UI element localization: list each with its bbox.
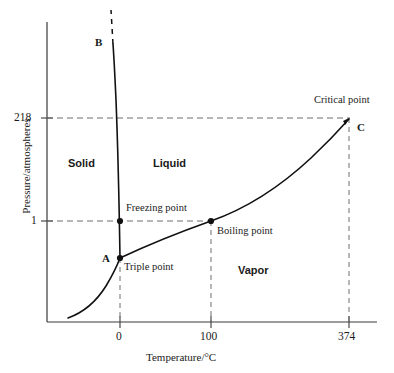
x-tick-label-0: 0 [116,331,122,343]
point-label-c: C [357,122,365,133]
phase-diagram-plot [0,0,394,373]
annotation-boiling-point: Boiling point [217,226,273,237]
x-tick-label-100: 100 [200,331,217,343]
fusion-curve [113,44,120,258]
annotation-freezing-point: Freezing point [126,203,187,214]
point-label-a: A [102,253,110,264]
y-tick-label-1: 1 [31,215,37,227]
freezing-point-marker [117,218,123,224]
x-tick-label-374: 374 [338,331,355,343]
y-tick-label-218: 218 [14,112,31,124]
region-label-liquid: Liquid [153,158,186,169]
sublimation-curve [68,258,120,318]
fusion-curve-extension [111,10,113,44]
annotation-triple-point: Triple point [124,262,174,273]
annotation-critical-point: Critical point [314,95,370,106]
boiling-point-marker [208,218,214,224]
region-label-vapor: Vapor [238,265,269,276]
phase-diagram-figure: Pressure/atmospheres 218 1 0 100 374 Tem… [0,0,394,373]
x-axis-title: Temperature/°C [146,352,216,363]
region-label-solid: Solid [68,158,95,169]
vaporization-curve [120,119,349,258]
triple-point-marker [117,255,123,261]
point-label-b: B [95,37,102,48]
